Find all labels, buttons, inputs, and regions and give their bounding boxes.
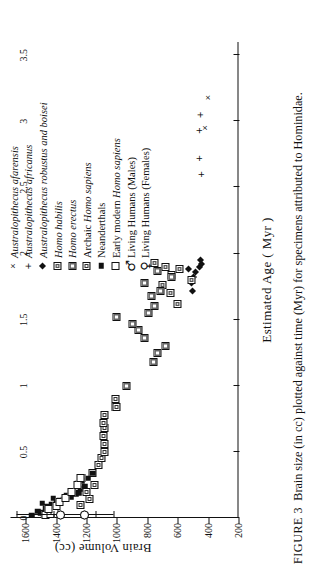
venus-symbol: ♀ <box>138 258 152 274</box>
data-point <box>99 419 107 427</box>
figure-caption: FIGURE 3 Brain size (in cc) plotted agai… <box>290 8 305 564</box>
legend-item: Homo habilis <box>50 102 65 274</box>
legend-item-label: Archaic Homo sapiens <box>81 162 92 258</box>
data-point <box>82 484 88 490</box>
data-point <box>140 334 148 342</box>
x-tick <box>233 54 239 55</box>
data-point <box>161 342 169 350</box>
data-point <box>112 313 120 321</box>
x-tick <box>233 253 239 254</box>
data-point <box>161 263 169 271</box>
square-hatched-icon <box>53 262 61 270</box>
legend-item: Homo erectus <box>64 102 79 274</box>
figure-number: FIGURE 3 <box>290 507 304 564</box>
legend-item: ♂Living Humans (Males) <box>123 102 138 274</box>
plus-icon: + <box>22 263 33 269</box>
data-point: + <box>194 155 205 161</box>
data-point <box>147 292 155 300</box>
legend-item: Early modern Homo sapiens <box>108 102 123 274</box>
legend-item: ×Australopithecus afarensis <box>6 102 21 274</box>
legend-item-label: Early modern Homo sapiens <box>110 138 121 258</box>
x-tick-label: 0.5 <box>17 435 28 469</box>
data-point <box>100 448 108 456</box>
data-point: + <box>194 127 205 133</box>
data-point: + <box>195 171 206 177</box>
legend-item: Neanderthals <box>94 102 109 274</box>
square-filled-marker <box>94 258 108 274</box>
square-open-marker <box>108 258 122 274</box>
legend-item-label: Australopithecus africanus <box>22 145 33 258</box>
data-point <box>100 440 108 448</box>
data-point <box>189 287 196 294</box>
figure-caption-text: Brain size (in cc) plotted against time … <box>290 92 304 501</box>
data-point <box>76 501 84 509</box>
mars-symbol: ♂ <box>123 258 137 274</box>
legend-item-label: Neanderthals <box>95 203 106 258</box>
legend-item-label: Living Humans (Females) <box>139 148 150 258</box>
data-point <box>44 505 52 513</box>
data-point <box>175 265 183 273</box>
data-point <box>187 276 195 284</box>
square-dotted-icon <box>82 262 90 270</box>
data-point: + <box>195 112 206 118</box>
y-tick-label: 800 <box>141 523 152 538</box>
data-point <box>76 474 84 482</box>
data-point <box>184 266 191 273</box>
x-tick <box>233 385 239 386</box>
living-human-mean-marker <box>56 511 65 520</box>
x-tick-label: 3.5 <box>17 38 28 72</box>
data-point <box>122 382 130 390</box>
data-point <box>99 432 107 440</box>
y-tick-label: 400 <box>202 523 213 538</box>
data-point: × <box>203 95 212 100</box>
data-point <box>112 403 120 411</box>
x-axis-title: Estimated Age ( Myr ) <box>258 42 274 518</box>
figure-rotation-wrapper: 00.511.522.533.5 20040060080010001200140… <box>0 0 333 574</box>
x-tick <box>233 186 239 187</box>
y-axis-title: Brain Volume (cc) <box>13 540 193 555</box>
data-point <box>89 470 95 476</box>
cross-icon: × <box>9 263 18 268</box>
data-point <box>153 267 161 275</box>
data-point <box>156 287 164 295</box>
data-point <box>85 496 93 504</box>
legend-item-label: Australopithecus afarensis <box>8 146 19 258</box>
venus-icon: ♀ <box>138 261 151 271</box>
mars-icon: ♂ <box>124 260 137 272</box>
x-tick <box>233 319 239 320</box>
legend-item-label: Homo erectus <box>66 200 77 258</box>
data-point <box>140 279 148 287</box>
square-shaded-icon <box>68 262 76 270</box>
x-tick <box>233 120 239 121</box>
x-tick <box>233 451 239 452</box>
data-point <box>90 481 98 489</box>
x-axis-line <box>237 42 238 518</box>
square-filled-icon <box>98 263 104 269</box>
data-point <box>153 349 161 357</box>
y-tick-label: 600 <box>172 523 183 538</box>
data-point <box>173 300 181 308</box>
error-bar-cap <box>53 511 54 518</box>
data-point <box>166 289 174 297</box>
legend-item: ♀Living Humans (Females) <box>137 102 152 274</box>
error-bar-cap <box>16 511 17 518</box>
cross-marker: × <box>6 258 20 274</box>
data-point <box>150 302 158 310</box>
error-bar-cap <box>113 511 114 518</box>
legend-item: Australopithecus robustus and boisei <box>35 102 50 274</box>
legend-item-label: Living Humans (Males) <box>125 157 136 258</box>
square-hatched-marker <box>50 258 64 274</box>
x-tick-label: 1.5 <box>17 303 28 337</box>
data-point <box>149 358 157 366</box>
plus-marker: + <box>21 258 35 274</box>
legend-item-label: Australopithecus robustus and boisei <box>37 102 48 258</box>
legend-item: +Australopithecus africanus <box>21 102 36 274</box>
living-human-mean-marker <box>80 511 89 520</box>
diamond-icon <box>39 262 46 269</box>
y-tick-label: 200 <box>233 523 244 538</box>
legend-item-label: Homo habilis <box>52 201 63 258</box>
data-point <box>111 395 119 403</box>
square-shaded-marker <box>65 258 79 274</box>
data-point <box>35 509 41 515</box>
legend: ×Australopithecus afarensis+Australopith… <box>6 102 152 274</box>
